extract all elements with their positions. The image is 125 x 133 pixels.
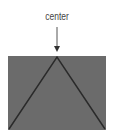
arrowhead-icon — [54, 46, 60, 52]
diagram-canvas — [0, 0, 125, 133]
gray-rectangle — [8, 56, 106, 130]
